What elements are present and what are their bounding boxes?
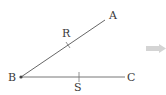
label-c: C bbox=[127, 71, 135, 84]
vertex-b-dot bbox=[19, 75, 22, 78]
right-arrow-icon bbox=[146, 44, 166, 53]
label-b: B bbox=[8, 71, 16, 84]
label-a: A bbox=[108, 9, 118, 22]
tick-r bbox=[66, 42, 70, 48]
label-s: S bbox=[74, 81, 82, 94]
label-r: R bbox=[62, 27, 71, 40]
angle-diagram: A B C R S bbox=[0, 0, 166, 95]
